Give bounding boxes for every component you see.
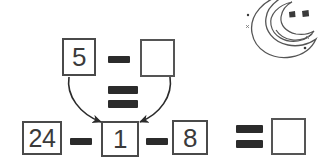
bottom-row-operand-1-box[interactable]: 24 bbox=[22, 121, 62, 155]
curved-arrow-left bbox=[69, 77, 101, 122]
sparkle-star-1 bbox=[246, 25, 249, 28]
top-row-operand-1-box[interactable]: 5 bbox=[62, 38, 96, 76]
moon-smile-icon bbox=[276, 30, 312, 40]
moon-outer-arc bbox=[252, 0, 316, 58]
bottom-row-operand-3-value: 8 bbox=[183, 125, 197, 151]
sparkle-dot-1 bbox=[247, 14, 249, 16]
worksheet-canvas: 5 24 1 8 bbox=[0, 0, 331, 168]
middle-equals-bar-bottom bbox=[108, 100, 138, 108]
middle-equals-bar-top bbox=[108, 86, 138, 94]
bottom-row-minus-operator-2 bbox=[146, 138, 168, 145]
curved-arrow-right bbox=[140, 77, 170, 122]
top-row-operand-2-box-blank[interactable] bbox=[140, 39, 175, 77]
moon-decoration bbox=[246, 0, 316, 58]
bottom-row-minus-operator-1 bbox=[70, 138, 92, 145]
bottom-row-operand-2-value: 1 bbox=[113, 126, 127, 152]
top-row-operand-1-value: 5 bbox=[72, 44, 86, 70]
bottom-row-operand-3-box[interactable]: 8 bbox=[172, 120, 208, 155]
bottom-row-equals-bar-bottom bbox=[236, 140, 263, 148]
bottom-row-operand-1-value: 24 bbox=[29, 126, 56, 151]
bottom-row-operand-2-box[interactable]: 1 bbox=[101, 121, 139, 157]
bottom-row-result-box-blank[interactable] bbox=[271, 118, 306, 155]
moon-eye-left-icon bbox=[289, 11, 296, 18]
moon-inner-arc bbox=[271, 2, 314, 41]
sparkle-dot-2 bbox=[304, 47, 307, 50]
top-row-minus-operator bbox=[108, 56, 130, 63]
moon-eye-right-icon bbox=[302, 10, 309, 17]
bottom-row-equals-bar-top bbox=[236, 125, 263, 133]
sparkle-star-2 bbox=[306, 36, 309, 39]
